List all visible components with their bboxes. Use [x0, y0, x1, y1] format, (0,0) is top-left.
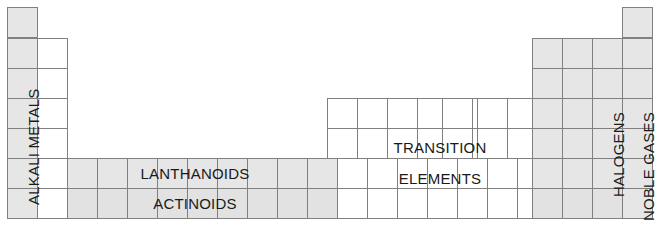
- p-r2-g15: [562, 38, 593, 69]
- label-alkali-metals: ALKALI METALS: [26, 88, 41, 205]
- p-r3-g18-noble: [622, 68, 653, 99]
- label-transition-elements-line2: ELEMENTS: [385, 171, 495, 186]
- periodic-table-diagram: ALKALI METALS LANTHANOIDS ACTINOIDS TRAN…: [0, 0, 660, 232]
- act-cell-1: [67, 188, 98, 219]
- d-r7-c5: [457, 188, 488, 219]
- act-cell-9: [307, 188, 338, 219]
- label-lanthanoids: LANTHANOIDS: [130, 166, 260, 181]
- act-cell-2: [97, 188, 128, 219]
- p-r6-g14: [532, 158, 563, 189]
- p-ext-r4-a: [442, 98, 473, 129]
- lanth-cell-8: [277, 158, 308, 189]
- d-r7-c4: [427, 188, 458, 219]
- act-cell-7: [247, 188, 278, 219]
- p-r2-g14: [532, 38, 563, 69]
- p-r5-g15: [562, 128, 593, 159]
- p-r6-g15: [562, 158, 593, 189]
- p-r4-g14: [532, 98, 563, 129]
- d-r7-c3: [397, 188, 428, 219]
- label-transition-elements-line1: TRANSITION: [385, 140, 495, 155]
- d-r7-c2: [367, 188, 398, 219]
- act-cell-8: [277, 188, 308, 219]
- d-r6-c1: [337, 158, 368, 189]
- p-r5-g14: [532, 128, 563, 159]
- cell-hydrogen: [7, 7, 38, 38]
- cell-helium: [622, 7, 653, 38]
- cell-group1-row2: [7, 38, 38, 69]
- p-r7-g14: [532, 188, 563, 219]
- d-r7-c1: [337, 188, 368, 219]
- p-r2-g16-halogen: [592, 38, 623, 69]
- d-r5-c2: [357, 128, 388, 159]
- d-r4-c2: [357, 98, 388, 129]
- label-actinoids: ACTINOIDS: [140, 196, 250, 211]
- p-r2-g18-noble: [622, 38, 653, 69]
- label-noble-gases: NOBLE GASES: [641, 112, 656, 221]
- p-r4-g15: [562, 98, 593, 129]
- d-r7-c6: [487, 188, 518, 219]
- label-halogens: HALOGENS: [611, 112, 626, 197]
- p-r7-g15: [562, 188, 593, 219]
- lanth-cell-2: [97, 158, 128, 189]
- d-r4-c1: [327, 98, 358, 129]
- d-r4-c6: [477, 98, 508, 129]
- p-r3-g15: [562, 68, 593, 99]
- p-r3-g14: [532, 68, 563, 99]
- lanth-cell-9: [307, 158, 338, 189]
- cell-group2-row2: [37, 38, 68, 69]
- d-r4-c3: [387, 98, 418, 129]
- p-r3-g16-halogen: [592, 68, 623, 99]
- lanth-cell-1: [67, 158, 98, 189]
- d-r5-c1: [327, 128, 358, 159]
